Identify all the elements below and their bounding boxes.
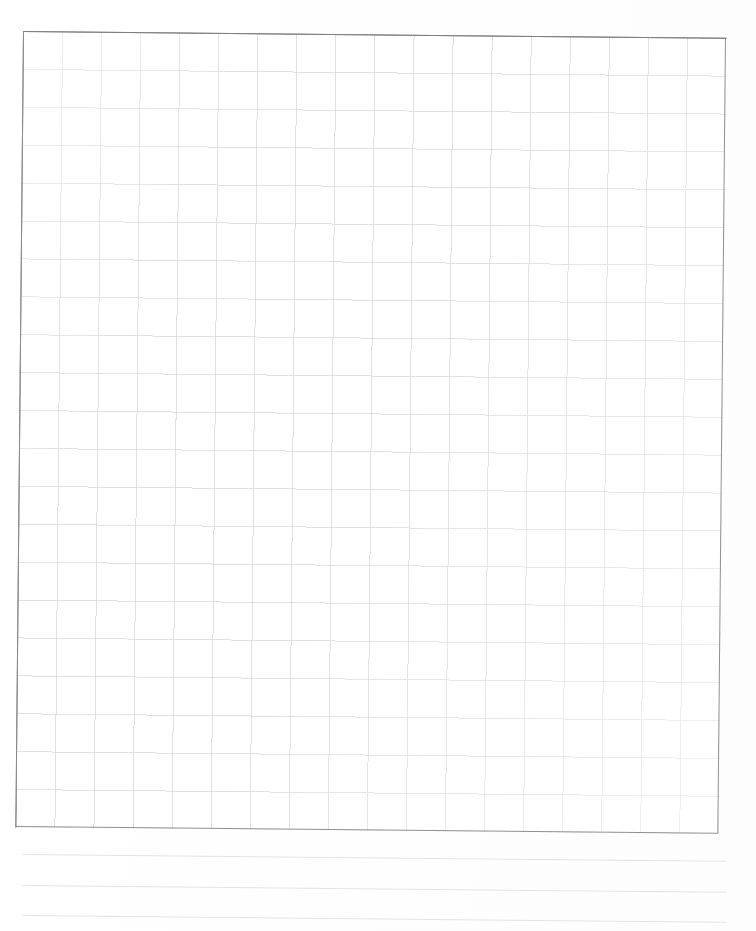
grid-cell-lines bbox=[15, 31, 726, 834]
worksheet-page bbox=[0, 0, 756, 931]
rule-line bbox=[22, 915, 726, 923]
graph-paper-grid[interactable] bbox=[15, 31, 726, 834]
rule-line bbox=[22, 885, 726, 893]
rule-line bbox=[22, 854, 726, 862]
